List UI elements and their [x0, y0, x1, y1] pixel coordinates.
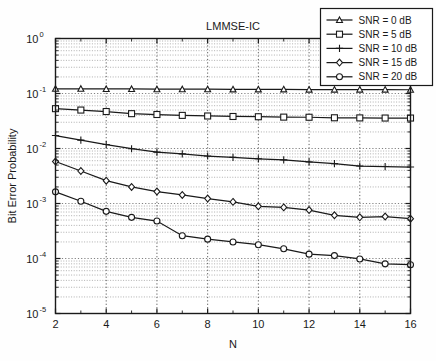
x-tick-label: 6 [154, 318, 160, 330]
y-tick-label-exponent: -4 [40, 250, 47, 259]
y-tick-label: 10 [26, 143, 38, 155]
chart-legend[interactable]: SNR = 0 dBSNR = 5 dBSNR = 10 dBSNR = 15 … [321, 9, 433, 86]
series-1 [53, 86, 414, 93]
data-point-marker-2-1 [78, 107, 84, 113]
y-tick-label-exponent: 0 [40, 30, 44, 39]
y-tick-label: 10 [26, 308, 38, 320]
data-point-marker-2-5 [179, 112, 185, 118]
legend-label-1: SNR = 0 dB [359, 15, 412, 26]
chart-figure: 246810121416 10-510-410-310-210-1100 LMM… [0, 0, 436, 361]
data-point-marker-5-11 [331, 253, 337, 259]
x-tick-label: 16 [404, 318, 416, 330]
data-point-marker-2-12 [357, 115, 363, 121]
data-point-marker-legend-2 [337, 31, 343, 37]
data-point-marker-2-10 [306, 114, 312, 120]
data-point-marker-2-9 [281, 114, 287, 120]
y-tick-label-exponent: -2 [40, 140, 47, 149]
data-point-marker-5-12 [357, 256, 363, 262]
data-point-marker-5-1 [78, 198, 84, 204]
y-tick-label-exponent: -5 [40, 305, 47, 314]
data-point-marker-5-5 [179, 233, 185, 239]
x-tick-label: 14 [354, 318, 366, 330]
data-point-marker-2-4 [154, 112, 160, 118]
y-tick-label: 10 [26, 198, 38, 210]
data-point-marker-2-2 [103, 109, 109, 115]
x-tick-label: 4 [103, 318, 109, 330]
y-tick-label: 10 [26, 88, 38, 100]
x-tick-label: 10 [252, 318, 264, 330]
data-point-marker-5-10 [306, 251, 312, 257]
x-tick-label: 8 [205, 318, 211, 330]
data-point-marker-2-11 [331, 115, 337, 121]
data-point-marker-2-13 [382, 115, 388, 121]
data-point-marker-5-8 [255, 242, 261, 248]
data-point-marker-2-8 [255, 114, 261, 120]
data-point-marker-2-6 [205, 113, 211, 119]
legend-label-4: SNR = 15 dB [359, 57, 418, 68]
legend-label-2: SNR = 5 dB [359, 29, 412, 40]
legend-label-3: SNR = 10 dB [359, 43, 418, 54]
y-axis-label: Bit Error Probability [6, 128, 18, 223]
data-point-marker-5-13 [382, 261, 388, 267]
data-point-marker-5-7 [230, 239, 236, 245]
data-point-marker-legend-5 [337, 74, 343, 80]
y-tick-label-exponent: -3 [40, 195, 47, 204]
chart-title: LMMSE-IC [206, 20, 260, 32]
data-point-marker-5-4 [154, 218, 160, 224]
data-point-marker-5-6 [205, 236, 211, 242]
y-tick-label: 10 [26, 253, 38, 265]
y-tick-label-exponent: -1 [40, 85, 47, 94]
data-point-marker-2-3 [129, 111, 135, 117]
x-tick-label: 2 [52, 318, 58, 330]
data-point-marker-5-9 [281, 246, 287, 252]
x-tick-label: 12 [303, 318, 315, 330]
y-tick-label: 10 [26, 33, 38, 45]
data-point-marker-5-2 [103, 208, 109, 214]
x-axis-label: N [229, 338, 237, 350]
legend-label-5: SNR = 20 dB [359, 71, 418, 82]
data-point-marker-2-7 [230, 113, 236, 119]
line-chart: 246810121416 10-510-410-310-210-1100 LMM… [0, 0, 436, 361]
data-point-marker-5-3 [129, 214, 135, 220]
